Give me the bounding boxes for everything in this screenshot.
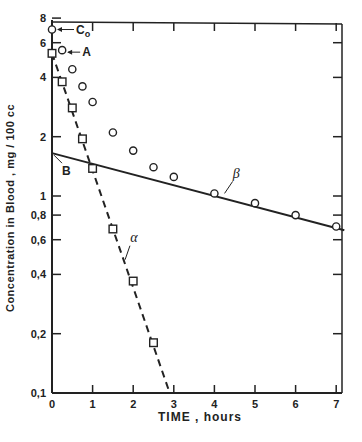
co-arrowhead <box>57 27 62 32</box>
x-tick-label: 6 <box>293 398 299 410</box>
y-tick-label: 0,8 <box>31 209 46 221</box>
circle-data-point <box>130 147 137 154</box>
circle-data-point <box>79 83 86 90</box>
beta-pointer <box>225 181 233 193</box>
co-subscript: o <box>85 29 91 39</box>
y-tick-label: 0,2 <box>31 328 46 340</box>
square-data-point <box>89 165 97 173</box>
x-tick-label: 7 <box>333 398 339 410</box>
circle-data-point <box>292 211 299 218</box>
y-tick-label: 6 <box>40 37 46 49</box>
top-border <box>52 22 342 24</box>
square-data-point <box>79 135 87 143</box>
square-data-point <box>69 104 77 112</box>
square-data-point <box>58 78 66 86</box>
data-points <box>48 26 340 347</box>
x-tick-label: 0 <box>49 398 55 410</box>
x-tick-label: 1 <box>90 398 96 410</box>
y-tick-label: 0,1 <box>31 387 46 399</box>
x-tick-label: 3 <box>171 398 177 410</box>
alpha-label: α <box>130 230 138 245</box>
circle-data-point <box>89 98 96 105</box>
circle-data-point <box>170 173 177 180</box>
x-tick-label: 5 <box>252 398 258 410</box>
circle-data-point <box>333 223 340 230</box>
square-data-point <box>150 339 158 347</box>
y-tick-label: 4 <box>40 71 47 83</box>
x-tick-label: 2 <box>130 398 136 410</box>
square-data-point <box>109 225 117 233</box>
circle-data-point <box>59 47 66 54</box>
square-data-point <box>48 50 56 58</box>
a-arrowhead <box>67 50 72 55</box>
beta-label: β <box>232 166 240 181</box>
a-label: A <box>82 45 91 59</box>
circle-data-point <box>251 200 258 207</box>
y-tick-label: 0,6 <box>31 234 46 246</box>
y-tick-label: 2 <box>40 131 46 143</box>
y-tick-label: 0,4 <box>31 268 47 280</box>
alpha-pointer <box>125 246 130 260</box>
x-axis-title: TIME , hours <box>158 410 242 424</box>
circle-data-point <box>48 26 55 33</box>
y-tick-label: 8 <box>40 12 46 24</box>
b-label: B <box>62 164 71 178</box>
circle-data-point <box>150 164 157 171</box>
y-axis-ticks: 0,10,20,40,60,812468 <box>31 12 342 399</box>
circle-data-point <box>69 66 76 73</box>
co-label: Co <box>76 23 91 39</box>
y-tick-label: 1 <box>40 190 46 202</box>
pharmacokinetic-chart: 01234567 0,10,20,40,60,812468 CoABαβ TIM… <box>0 0 362 442</box>
square-data-point <box>129 277 137 285</box>
x-tick-label: 4 <box>211 398 218 410</box>
y-axis-title: Concentration in Blood , mg / 100 cc <box>4 104 16 312</box>
circle-data-point <box>211 190 218 197</box>
circle-data-point <box>109 129 116 136</box>
plot-frame <box>52 20 342 393</box>
